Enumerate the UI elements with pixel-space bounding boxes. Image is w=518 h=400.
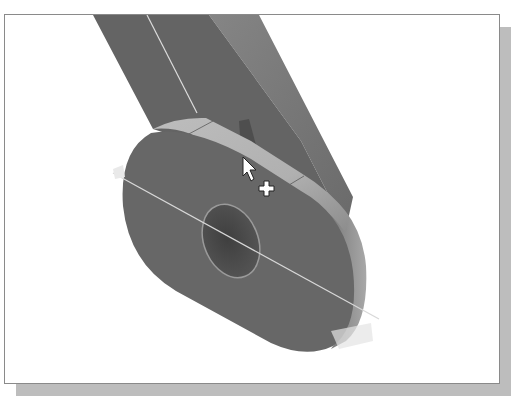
ghost-mark [113, 165, 125, 179]
graphics-viewport[interactable] [4, 14, 500, 384]
model-scene[interactable] [4, 14, 500, 384]
